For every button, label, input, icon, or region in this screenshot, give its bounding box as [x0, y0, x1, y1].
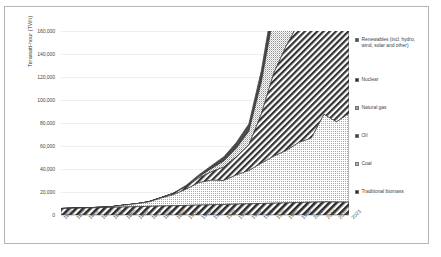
legend-label: Coal — [362, 161, 372, 167]
legend-item[interactable]: Renewables (incl. hydro, wind, solar and… — [355, 37, 424, 49]
legend-swatch — [355, 78, 359, 82]
legend-label: Renewables (incl. hydro, wind, solar and… — [362, 37, 424, 49]
y-axis-tick-label: 40,000 — [40, 166, 55, 172]
legend-item[interactable]: Coal — [355, 161, 372, 167]
stacked-area-series — [61, 31, 349, 215]
legend-item[interactable]: Traditional biomass — [355, 189, 404, 195]
y-axis-tick-label: 160,000 — [37, 28, 55, 34]
legend-item[interactable]: Oil — [355, 133, 367, 139]
legend-swatch — [355, 106, 359, 110]
y-axis-tick-label: 80,000 — [40, 120, 55, 126]
legend-swatch — [355, 190, 359, 194]
plot-area — [61, 31, 349, 215]
legend-swatch — [355, 162, 359, 166]
y-axis-tick-label: 140,000 — [37, 51, 55, 57]
y-axis-tick-label: 120,000 — [37, 74, 55, 80]
y-axis-tick-label: 60,000 — [40, 143, 55, 149]
y-axis-tick-label: 0 — [52, 212, 55, 218]
y-axis-tick-labels: 020,00040,00060,00080,000100,000120,0001… — [5, 31, 59, 215]
y-axis-tick-label: 100,000 — [37, 97, 55, 103]
legend-label: Traditional biomass — [362, 189, 404, 195]
legend-swatch — [355, 38, 359, 42]
legend-item[interactable]: Nuclear — [355, 77, 378, 83]
x-axis-tick-label: 2021 — [350, 208, 362, 220]
legend-label: Nuclear — [362, 77, 379, 83]
chart-frame: Terawatt-hour (TWh) 020,00040,00060,0008… — [4, 6, 429, 244]
legend-label: Natural gas — [362, 105, 387, 111]
x-axis-tick-labels: 1800181018201830184018501860187018801890… — [61, 216, 349, 250]
legend-label: Oil — [362, 133, 368, 139]
legend-swatch — [355, 134, 359, 138]
y-axis-tick-label: 20,000 — [40, 189, 55, 195]
legend-item[interactable]: Natural gas — [355, 105, 387, 111]
area-chart-svg — [61, 31, 349, 215]
